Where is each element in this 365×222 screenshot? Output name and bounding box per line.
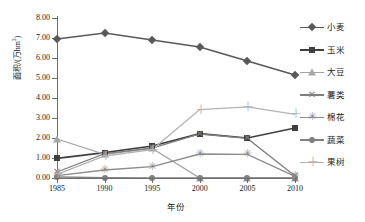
asterisk-marker-icon: ✳	[307, 113, 317, 121]
square-marker-icon	[54, 155, 60, 161]
legend-marker	[300, 134, 324, 146]
x-axis-tick	[295, 178, 296, 183]
x-axis-tick-label: 1990	[85, 184, 125, 193]
plus-marker-icon: ＋	[147, 146, 157, 154]
plus-marker-icon: ＋	[290, 110, 300, 118]
legend-marker	[300, 21, 324, 33]
legend-marker	[300, 44, 324, 56]
asterisk-marker-icon: ✳	[242, 150, 252, 158]
square-marker-icon	[292, 125, 298, 131]
legend-item-6[interactable]: 蔬菜	[300, 129, 365, 152]
x-marker-icon: ✕	[242, 134, 252, 142]
legend-item-7[interactable]: ＋果树	[300, 151, 365, 174]
series-line	[57, 154, 295, 176]
legend-label: 棉花	[324, 112, 345, 122]
x-axis-tick	[57, 178, 58, 183]
series-line	[57, 128, 295, 158]
series-line	[57, 33, 295, 75]
x-marker-icon: ✕	[195, 130, 205, 138]
legend-label: 小麦	[324, 22, 345, 32]
circle-marker-icon	[309, 137, 315, 143]
legend-label: 玉米	[324, 45, 345, 55]
legend-item-1[interactable]: 小麦	[300, 16, 365, 39]
legend-label: 果树	[324, 157, 345, 167]
x-axis-tick	[105, 178, 106, 183]
legend-item-4[interactable]: ✕薯类	[300, 84, 365, 107]
asterisk-marker-icon: ✳	[100, 166, 110, 174]
legend-item-2[interactable]: 玉米	[300, 39, 365, 62]
x-axis-tick-label: 2000	[180, 184, 220, 193]
x-axis-tick-label: 1995	[132, 184, 172, 193]
legend-label: 薯类	[324, 90, 345, 100]
square-marker-icon	[309, 47, 315, 53]
asterisk-marker-icon: ✳	[147, 163, 157, 171]
chart-legend: 小麦玉米大豆✕薯类✳棉花蔬菜＋果树	[300, 16, 365, 174]
asterisk-marker-icon: ✳	[195, 150, 205, 158]
plus-marker-icon: ＋	[100, 152, 110, 160]
x-axis-tick-label: 2010	[275, 184, 315, 193]
legend-label: 大豆	[324, 67, 345, 77]
plus-marker-icon: ＋	[307, 158, 317, 166]
triangle-marker-icon	[53, 136, 61, 143]
x-axis-line	[55, 178, 297, 179]
triangle-marker-icon	[308, 69, 316, 76]
plus-marker-icon: ＋	[195, 106, 205, 114]
legend-marker	[300, 66, 324, 78]
legend-marker: ✕	[300, 89, 324, 101]
x-marker-icon: ✕	[307, 91, 317, 99]
legend-marker: ＋	[300, 156, 324, 168]
legend-item-5[interactable]: ✳棉花	[300, 106, 365, 129]
diamond-marker-icon	[308, 23, 316, 31]
x-axis-tick-label: 1985	[37, 184, 77, 193]
x-axis-tick	[200, 178, 201, 183]
x-axis-tick	[152, 178, 153, 183]
x-axis-tick-label: 2005	[227, 184, 267, 193]
legend-label: 蔬菜	[324, 135, 345, 145]
plus-marker-icon: ＋	[242, 103, 252, 111]
legend-marker: ✳	[300, 111, 324, 123]
x-axis-title: 年份	[57, 200, 295, 212]
line-chart: 面积/(万hm2) 0.001.002.003.004.005.006.007.…	[0, 0, 365, 222]
legend-item-3[interactable]: 大豆	[300, 61, 365, 84]
x-axis-tick	[247, 178, 248, 183]
